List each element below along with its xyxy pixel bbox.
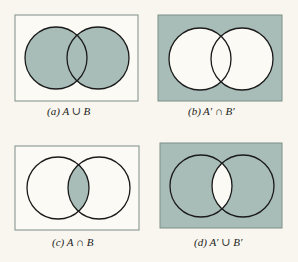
panel-b-complement-intersection [158, 15, 282, 101]
caption-a: (a) A ∪ B [47, 105, 90, 118]
caption-b: (b) A′ ∩ B′ [188, 105, 235, 117]
panel-d-complement-union [160, 143, 282, 228]
caption-d: (d) A′ ∪ B′ [194, 236, 242, 249]
panel-c-intersection [15, 146, 139, 230]
venn-diagram-canvas [0, 0, 298, 262]
panel-a-union [15, 15, 138, 101]
caption-c: (c) A ∩ B [52, 236, 93, 248]
